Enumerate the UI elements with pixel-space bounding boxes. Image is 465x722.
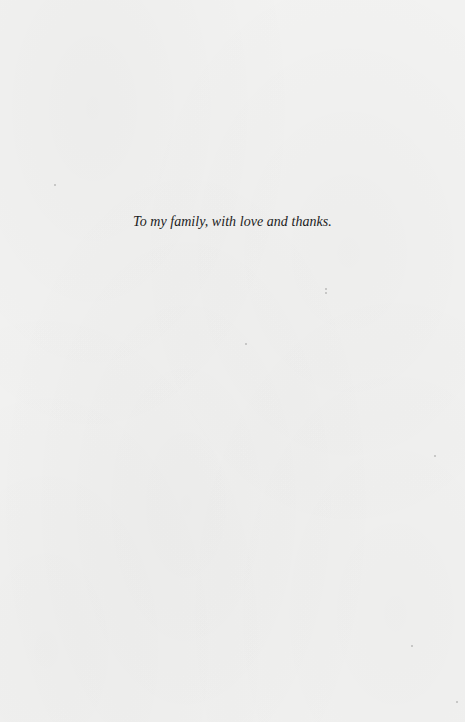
dedication-text: To my family, with love and thanks. [0, 213, 465, 231]
book-page: To my family, with love and thanks. [0, 0, 465, 722]
paper-speck [434, 455, 436, 457]
paper-speck [245, 343, 247, 345]
paper-speck [325, 288, 327, 290]
paper-speck [54, 184, 56, 186]
paper-speck [456, 701, 458, 703]
paper-speck [325, 292, 327, 294]
paper-speck [411, 645, 413, 647]
